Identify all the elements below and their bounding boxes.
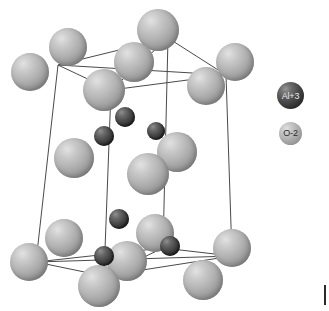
atom-o-bot-edge-front <box>78 265 120 307</box>
crystal-structure-figure: Al+3 O-2 <box>0 0 329 311</box>
atom-al-upper-right <box>147 122 165 140</box>
atom-al-upper-center <box>115 107 135 127</box>
legend-item-oxygen: O-2 <box>272 120 328 148</box>
atom-o-top-edge-right <box>187 67 225 105</box>
legend-label-oxygen: O-2 <box>279 129 302 138</box>
atom-o-top-corner-left <box>11 53 49 91</box>
atom-al-lower-right <box>160 236 180 256</box>
atom-o-top-edge-front <box>83 69 125 111</box>
atom-o-mid-left <box>54 138 94 178</box>
atom-o-bot-corner-frontmid <box>45 219 83 257</box>
atom-o-top-corner-frontmid <box>49 28 87 66</box>
legend-label-aluminium: Al+3 <box>277 92 304 101</box>
atom-al-lower-center <box>109 209 129 229</box>
atom-o-mid-center <box>127 153 169 195</box>
atom-o-bot-edge-right <box>183 260 223 300</box>
legend-item-aluminium: Al+3 <box>272 82 328 110</box>
atom-al-upper-left <box>94 126 114 146</box>
atom-o-bot-corner-left <box>10 243 48 281</box>
scan-edge-artifact <box>324 285 326 305</box>
atom-al-lower-left <box>94 246 114 266</box>
legend: Al+3 O-2 <box>272 82 328 148</box>
atom-o-bot-corner-right <box>213 229 251 267</box>
